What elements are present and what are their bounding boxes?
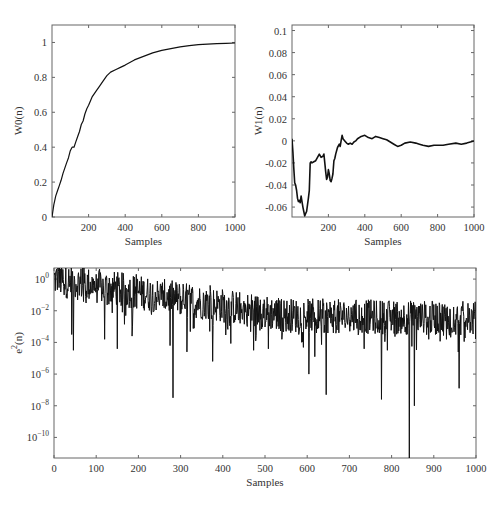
x-tick-label: 300	[173, 463, 189, 474]
x-axis-label: Samples	[364, 235, 401, 247]
e2-series-line	[54, 268, 476, 458]
plot-w0: 200400600800100000.20.40.60.81SamplesW0(…	[12, 25, 246, 247]
y-tick-label: 0.2	[34, 177, 47, 188]
y-tick-label: 10−6	[31, 366, 50, 380]
x-tick-label: 200	[81, 222, 97, 233]
y-tick-label: -0.02	[265, 158, 287, 169]
y-tick-label: 10−2	[31, 303, 50, 317]
x-tick-label: 1000	[466, 463, 487, 474]
w0-series-line	[52, 43, 235, 217]
x-tick-label: 400	[215, 463, 231, 474]
y-tick-label: 0	[282, 136, 287, 147]
y-tick-label: 1	[42, 37, 47, 48]
x-tick-label: 1000	[464, 222, 485, 233]
x-tick-label: 100	[88, 463, 104, 474]
w1-series-line	[292, 135, 474, 216]
x-tick-label: 200	[131, 463, 147, 474]
plot-w1: 2004006008001000-0.06-0.04-0.0200.020.04…	[252, 25, 485, 247]
y-tick-label: 0.04	[269, 92, 288, 103]
y-tick-label: 10−8	[31, 398, 50, 412]
y-tick-label: -0.04	[265, 180, 288, 191]
x-tick-label: 0	[51, 463, 56, 474]
x-tick-label: 200	[321, 222, 337, 233]
y-tick-label: 0.4	[34, 142, 48, 153]
y-tick-label: 0.06	[269, 70, 287, 81]
axes-frame	[292, 25, 474, 217]
axes-frame	[52, 25, 235, 217]
x-tick-label: 600	[299, 463, 315, 474]
x-tick-label: 800	[430, 222, 446, 233]
y-axis-label: e2(n)	[10, 332, 25, 354]
x-tick-label: 900	[426, 463, 442, 474]
x-tick-label: 600	[393, 222, 409, 233]
x-axis-label: Samples	[246, 476, 283, 488]
y-tick-label: 0	[42, 212, 47, 223]
y-tick-label: 100	[35, 271, 50, 285]
y-tick-label: 0.6	[34, 107, 47, 118]
x-axis-label: Samples	[125, 235, 162, 247]
y-tick-label: 0.1	[274, 26, 287, 37]
x-tick-label: 1000	[225, 222, 246, 233]
x-tick-label: 400	[357, 222, 373, 233]
x-tick-label: 500	[257, 463, 273, 474]
y-tick-label: 10−4	[31, 334, 50, 348]
y-tick-label: 0.02	[269, 114, 287, 125]
y-tick-label: 0.08	[269, 48, 287, 59]
y-axis-label: W0(n)	[12, 106, 25, 135]
y-axis-label: W1(n)	[252, 106, 265, 135]
x-tick-label: 800	[384, 463, 400, 474]
y-tick-label: 0.8	[34, 72, 47, 83]
x-tick-label: 800	[191, 222, 207, 233]
plot-e2: 0100200300400500600700800900100010010−21…	[10, 268, 487, 488]
x-tick-label: 600	[154, 222, 170, 233]
y-tick-label: 10−10	[27, 429, 49, 443]
x-tick-label: 700	[342, 463, 358, 474]
x-tick-label: 400	[117, 222, 133, 233]
y-tick-label: -0.06	[265, 202, 287, 213]
figure: 200400600800100000.20.40.60.81SamplesW0(…	[0, 0, 503, 508]
